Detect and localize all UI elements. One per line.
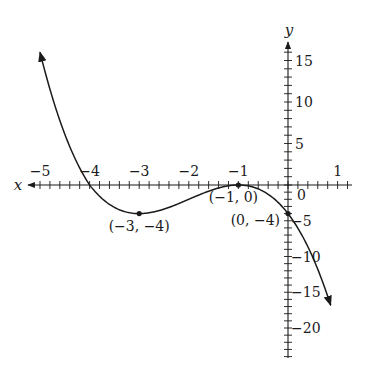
y-tick-label: 5 bbox=[295, 136, 304, 152]
x-tick-label: 1 bbox=[333, 163, 342, 179]
x-tick-label: −2 bbox=[178, 163, 199, 179]
x-axis: −5−4−3−2−11 bbox=[28, 163, 352, 189]
y-tick-label: −20 bbox=[291, 320, 321, 336]
y-axis-label: y bbox=[284, 21, 294, 39]
y-tick-label: −10 bbox=[291, 249, 321, 265]
x-tick-label: −5 bbox=[30, 163, 51, 179]
point-marker bbox=[137, 211, 142, 216]
y-tick-label: 15 bbox=[295, 53, 313, 69]
point-label: (0, −4) bbox=[231, 212, 280, 228]
y-tick-label: −15 bbox=[291, 284, 321, 300]
origin-label: 0 bbox=[297, 187, 306, 203]
point-label: (−1, 0) bbox=[209, 189, 258, 205]
x-tick-label: −4 bbox=[79, 163, 100, 179]
x-axis-label: x bbox=[14, 176, 23, 194]
x-tick-label: −3 bbox=[129, 163, 150, 179]
point-marker bbox=[285, 211, 290, 216]
point-label: (−3, −4) bbox=[109, 218, 170, 234]
x-tick-label: −1 bbox=[228, 163, 249, 179]
y-tick-label: −5 bbox=[291, 213, 312, 229]
function-graph: −5−4−3−2−11 15105−5−10−15−20 (−3, −4)(−1… bbox=[0, 0, 367, 379]
point-marker bbox=[236, 182, 241, 187]
y-tick-label: 10 bbox=[295, 94, 313, 110]
labeled-points: (−3, −4)(−1, 0)(0, −4) bbox=[109, 182, 291, 233]
